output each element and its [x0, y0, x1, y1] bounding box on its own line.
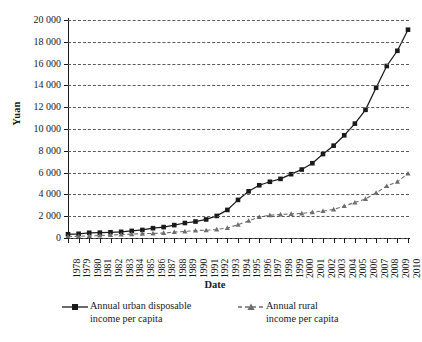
x-axis-tick-labels: 1978197919801981198219831984198519861987…	[68, 240, 410, 282]
x-tick-label: 2010	[412, 259, 422, 278]
x-tick-label: 2001	[316, 259, 326, 278]
gridline	[68, 129, 409, 130]
x-tick-label: 2006	[369, 259, 379, 278]
x-tick-label: 1996	[263, 259, 273, 278]
x-tick-label: 2009	[401, 259, 411, 278]
x-tick-label: 2008	[390, 259, 400, 278]
x-tick-label: 1992	[220, 259, 230, 278]
data-point-marker	[353, 121, 358, 126]
x-tick-label: 1989	[188, 259, 198, 278]
data-point-marker	[342, 203, 347, 208]
data-point-marker	[363, 108, 368, 113]
x-axis-title: Date	[155, 279, 275, 290]
x-tick-label: 1998	[284, 259, 294, 278]
y-tick-mark	[64, 173, 68, 174]
x-tick-label: 2000	[305, 259, 315, 278]
y-tick-label: 6 000	[39, 168, 62, 178]
x-tick-label: 2003	[337, 259, 347, 278]
y-tick-mark	[64, 194, 68, 195]
data-point-marker	[236, 198, 241, 203]
data-point-marker	[310, 161, 315, 166]
gridline	[68, 64, 409, 65]
plot-area	[68, 20, 409, 238]
y-tick-label: 16 000	[34, 59, 62, 69]
x-tick-label: 1985	[146, 259, 156, 278]
x-tick-label: 1986	[157, 259, 167, 278]
data-point-marker	[363, 196, 368, 201]
y-tick-mark	[64, 20, 68, 21]
y-tick-label: 18 000	[34, 37, 62, 47]
y-tick-label: 14 000	[34, 80, 62, 90]
x-tick-label: 1987	[167, 259, 177, 278]
data-point-marker	[172, 223, 177, 228]
y-tick-label: 2 000	[39, 211, 62, 221]
data-point-marker	[321, 152, 326, 157]
x-tick-label: 1983	[125, 259, 135, 278]
x-tick-label: 1980	[93, 259, 103, 278]
data-point-marker	[225, 208, 230, 213]
y-tick-mark	[64, 42, 68, 43]
y-tick-label: 20 000	[34, 15, 62, 25]
gridline	[68, 194, 409, 195]
data-point-marker	[342, 133, 347, 138]
y-axis-tick-labels: 02 0004 0006 0008 00010 00012 00014 0001…	[0, 0, 64, 250]
y-tick-label: 4 000	[39, 189, 62, 199]
data-point-marker	[331, 207, 336, 212]
y-tick-mark	[64, 107, 68, 108]
x-tick-label: 2002	[327, 259, 337, 278]
legend-item-urban: Annual urban disposable income per capit…	[62, 300, 191, 325]
x-tick-label: 1982	[114, 259, 124, 278]
gridline	[68, 42, 409, 43]
x-tick-label: 1988	[178, 259, 188, 278]
gridline	[68, 151, 409, 152]
x-tick-label: 1997	[273, 259, 283, 278]
series-rural	[65, 171, 410, 239]
y-tick-mark	[64, 85, 68, 86]
gridline	[68, 85, 409, 86]
chart-legend: Annual urban disposable income per capit…	[62, 300, 402, 338]
data-point-marker	[183, 221, 188, 226]
data-point-marker	[395, 48, 400, 53]
x-tick-label: 2005	[358, 259, 368, 278]
data-point-marker	[384, 184, 389, 189]
y-tick-mark	[64, 216, 68, 217]
x-tick-label: 2007	[380, 259, 390, 278]
y-tick-mark	[64, 64, 68, 65]
y-tick-label: 12 000	[34, 102, 62, 112]
x-tick-label: 1999	[295, 259, 305, 278]
data-point-marker	[204, 217, 209, 222]
x-tick-label: 1990	[199, 259, 209, 278]
series-line	[68, 173, 408, 236]
data-point-marker	[268, 179, 273, 184]
gridline	[68, 20, 409, 21]
y-tick-label: 8 000	[39, 146, 62, 156]
x-tick-label: 1993	[231, 259, 241, 278]
data-point-marker	[246, 189, 251, 194]
legend-label-urban: Annual urban disposable income per capit…	[90, 300, 191, 325]
x-tick-label: 1995	[252, 259, 262, 278]
x-tick-label: 2004	[348, 259, 358, 278]
gridline	[68, 216, 409, 217]
data-point-marker	[257, 183, 262, 188]
data-point-marker	[193, 219, 198, 224]
data-point-marker	[161, 225, 166, 230]
legend-item-rural: Annual rural income per capita	[238, 300, 338, 325]
data-point-marker	[246, 218, 251, 223]
series-line	[68, 30, 408, 235]
y-tick-mark	[64, 129, 68, 130]
legend-swatch-rural-dashed-triangle	[238, 301, 264, 313]
x-tick-label: 1979	[82, 259, 92, 278]
gridline	[68, 107, 409, 108]
y-tick-label: 0	[56, 233, 61, 243]
data-point-marker	[299, 167, 304, 172]
legend-swatch-urban-solid-square	[62, 301, 88, 313]
x-tick-label: 1984	[135, 259, 145, 278]
y-tick-mark	[64, 151, 68, 152]
data-point-marker	[395, 179, 400, 184]
gridline	[68, 173, 409, 174]
y-tick-label: 10 000	[34, 124, 62, 134]
data-point-marker	[406, 27, 411, 32]
data-point-marker	[331, 143, 336, 148]
x-tick-label: 1991	[210, 259, 220, 278]
